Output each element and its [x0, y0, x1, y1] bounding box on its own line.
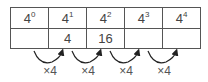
curved-arrow-icon: [72, 51, 100, 63]
multiply-arrows: [0, 0, 208, 82]
arrow-label: ×4: [76, 64, 100, 78]
curved-arrow-icon: [110, 51, 138, 63]
arrow-label: ×4: [152, 64, 176, 78]
curved-arrow-icon: [34, 51, 62, 63]
arrow-label: ×4: [114, 64, 138, 78]
curved-arrow-icon: [148, 51, 176, 63]
arrow-label: ×4: [38, 64, 62, 78]
